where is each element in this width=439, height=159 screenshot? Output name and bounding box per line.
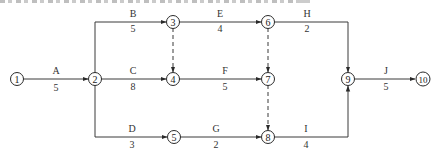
- network-diagram: A 5 B 5 C 8 D 3 E 4 F 5 G 2 H 2 I 4 J 5 …: [0, 0, 439, 159]
- node-label: 8: [266, 132, 271, 143]
- node-5: 5: [168, 131, 181, 144]
- activity-name-G: G: [212, 123, 219, 134]
- activity-duration-D: 3: [130, 139, 135, 150]
- activity-duration-C: 8: [131, 81, 136, 92]
- node-label: 9: [346, 74, 351, 85]
- activity-duration-E: 4: [218, 23, 223, 34]
- node-3: 3: [167, 16, 180, 29]
- edge-H: [274, 22, 348, 72]
- node-label: 6: [266, 17, 271, 28]
- activity-name-H: H: [303, 8, 310, 19]
- edges: [23, 22, 415, 137]
- activity-name-I: I: [304, 123, 307, 134]
- node-label: 5: [172, 132, 177, 143]
- node-label: 10: [419, 75, 429, 85]
- edge-I: [274, 86, 348, 137]
- node-6: 6: [262, 16, 275, 29]
- activity-duration-I: 4: [304, 139, 309, 150]
- node-label: 2: [93, 74, 98, 85]
- node-1: 1: [11, 73, 24, 86]
- activity-name-B: B: [130, 8, 137, 19]
- activity-duration-A: 5: [54, 82, 59, 93]
- activity-name-F: F: [222, 65, 228, 76]
- node-4: 4: [167, 73, 180, 86]
- activity-duration-H: 2: [305, 23, 310, 34]
- activity-duration-B: 5: [131, 23, 136, 34]
- activity-name-E: E: [217, 8, 223, 19]
- activity-name-A: A: [52, 65, 60, 76]
- node-9: 9: [342, 73, 355, 86]
- activity-name-D: D: [128, 123, 135, 134]
- node-8: 8: [262, 131, 275, 144]
- node-10: 10: [416, 72, 430, 86]
- node-label: 1: [15, 74, 20, 85]
- activity-name-C: C: [130, 65, 137, 76]
- node-2: 2: [89, 73, 102, 86]
- node-label: 3: [171, 17, 176, 28]
- activity-duration-F: 5: [223, 81, 228, 92]
- activity-duration-J: 5: [384, 81, 389, 92]
- activity-name-J: J: [384, 65, 388, 76]
- activity-duration-G: 2: [214, 139, 219, 150]
- node-7: 7: [262, 73, 275, 86]
- node-label: 7: [266, 74, 271, 85]
- node-label: 4: [171, 74, 176, 85]
